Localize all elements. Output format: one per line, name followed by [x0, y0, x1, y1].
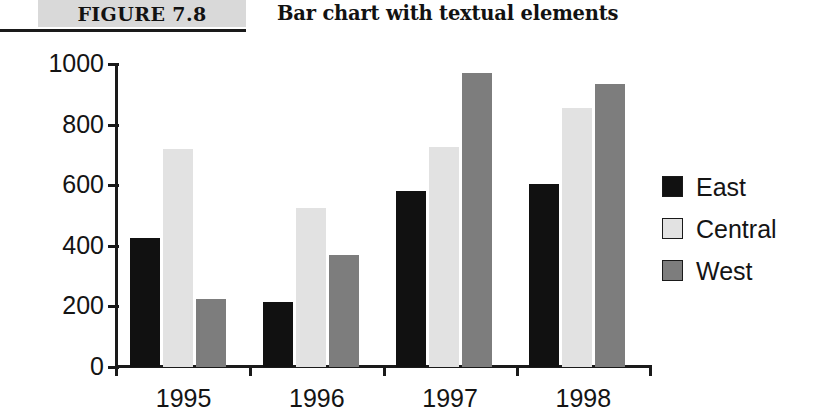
y-axis-tick-label: 600 [0, 172, 104, 197]
bar-chart: 02004006008001000 1995199619971998 EastC… [0, 34, 832, 418]
y-axis-tick-label: 1000 [0, 51, 104, 76]
figure-title: Bar chart with textual elements [277, 1, 618, 27]
legend-label: West [696, 252, 753, 290]
x-axis-tick-label: 1998 [513, 384, 653, 412]
bar-west-1996 [329, 255, 359, 367]
bar-west-1998 [595, 84, 625, 367]
legend-item-east[interactable]: East [662, 168, 832, 210]
legend-swatch-icon-central [662, 218, 683, 239]
bar-west-1995 [196, 299, 226, 367]
legend-swatch-icon-west [662, 260, 683, 281]
y-axis-tick-label-text: 600 [8, 172, 104, 197]
bar-east-1996 [263, 302, 293, 367]
x-axis-tick-label: 1995 [114, 384, 254, 412]
figure-header: FIGURE 7.8 Bar chart with textual elemen… [0, 0, 832, 34]
y-axis-tick-label-text: 400 [8, 233, 104, 258]
y-axis-tick-label-text: 800 [8, 112, 104, 137]
bar-central-1997 [429, 147, 459, 367]
legend-item-west[interactable]: West [662, 252, 832, 294]
y-axis-tick-label-text: 200 [8, 293, 104, 318]
x-axis-tick-label: 1997 [380, 384, 520, 412]
bar-central-1998 [562, 108, 592, 367]
bar-west-1997 [462, 73, 492, 367]
x-axis-tick-label: 1996 [247, 384, 387, 412]
y-axis-tick-label: 200 [0, 293, 104, 318]
y-axis-tick-label-text: 1000 [8, 51, 104, 76]
bar-central-1995 [163, 149, 193, 367]
legend-item-central[interactable]: Central [662, 210, 832, 252]
plot-area [117, 64, 650, 367]
legend-label: Central [696, 210, 777, 248]
figure-number: FIGURE 7.8 [38, 1, 246, 27]
header-divider-rule [0, 29, 246, 32]
y-axis-tick-label: 400 [0, 233, 104, 258]
legend-swatch-icon-east [662, 176, 683, 197]
chart-legend: EastCentralWest [662, 168, 832, 294]
bar-central-1996 [296, 208, 326, 367]
bar-east-1995 [130, 238, 160, 367]
y-axis-tick-label: 0 [0, 354, 104, 379]
legend-label: East [696, 168, 746, 206]
y-axis-tick-label: 800 [0, 112, 104, 137]
bar-east-1997 [396, 191, 426, 367]
bar-east-1998 [529, 184, 559, 367]
y-axis-tick-label-text: 0 [8, 354, 104, 379]
